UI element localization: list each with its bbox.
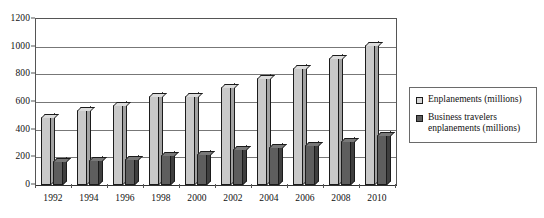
bar-enplanements	[293, 68, 303, 185]
bar-business-travelers	[161, 155, 171, 185]
x-axis-tick-mark	[395, 184, 396, 188]
y-axis-tick-label: 800	[15, 68, 30, 78]
bar-group	[288, 19, 324, 185]
bar-top	[329, 55, 347, 59]
bar-top	[161, 152, 179, 156]
bar-enplanements	[149, 96, 159, 185]
legend-label: Enplanements (millions)	[428, 94, 522, 106]
bar-top	[377, 132, 395, 136]
x-axis-tick-mark	[71, 184, 72, 188]
bar-side	[207, 150, 211, 185]
bar-group	[108, 19, 144, 185]
bar-business-travelers	[53, 161, 63, 185]
bar-enplanements	[329, 58, 339, 185]
bar-business-travelers	[233, 149, 243, 185]
bar-face	[233, 149, 243, 185]
bar-business-travelers	[89, 160, 99, 185]
bar-top	[89, 157, 107, 161]
bar-face	[197, 154, 207, 185]
x-axis-tick-mark	[179, 184, 180, 188]
bar-face	[185, 96, 195, 185]
bar-side	[351, 137, 355, 185]
x-axis-tick-label: 2008	[331, 193, 350, 203]
x-axis-tick-mark	[107, 184, 108, 188]
bar-group	[144, 19, 180, 185]
bar-group	[252, 19, 288, 185]
bar-enplanements	[221, 87, 231, 185]
x-axis-tick-label: 2006	[295, 193, 314, 203]
bar-face	[41, 117, 51, 185]
bar-business-travelers	[305, 145, 315, 185]
legend-item: Enplanements (millions)	[416, 94, 531, 106]
x-axis: 1992199419961998200020022004200620082010	[35, 184, 395, 218]
x-axis-tick-mark	[143, 184, 144, 188]
bar-top	[113, 102, 131, 106]
legend-item: Business travelers enplanements (million…	[416, 112, 531, 135]
bar-face	[149, 96, 159, 185]
bar-face	[125, 159, 135, 185]
bar-face	[341, 141, 351, 185]
bar-enplanements	[77, 110, 87, 185]
bar-face	[89, 160, 99, 185]
bar-group	[180, 19, 216, 185]
bar-face	[305, 145, 315, 185]
x-axis-tick-mark	[251, 184, 252, 188]
bar-business-travelers	[197, 154, 207, 185]
bar-top	[185, 93, 203, 97]
bar-group	[216, 19, 252, 185]
legend-swatch-business-travelers-icon	[416, 115, 423, 122]
x-axis-tick-label: 1996	[115, 193, 134, 203]
bar-face	[365, 45, 375, 185]
bar-top	[41, 114, 59, 118]
plot-inner	[36, 19, 396, 185]
bar-group	[324, 19, 360, 185]
x-axis-tick-mark	[35, 184, 36, 188]
bar-enplanements	[257, 78, 267, 185]
y-axis-tick-label: 200	[15, 151, 30, 161]
x-axis-tick-label: 1998	[151, 193, 170, 203]
bar-face	[257, 78, 267, 185]
bar-side	[243, 145, 247, 185]
bar-enplanements	[113, 105, 123, 185]
y-axis-tick-label: 600	[15, 96, 30, 106]
bar-top	[269, 144, 287, 148]
bar-top	[233, 146, 251, 150]
bar-group	[360, 19, 396, 185]
y-axis: 020040060080010001200	[0, 0, 30, 218]
bar-top	[221, 84, 239, 88]
bar-top	[257, 75, 275, 79]
bar-top	[341, 138, 359, 142]
y-axis-tick-label: 1000	[11, 41, 30, 51]
bar-group	[72, 19, 108, 185]
y-axis-tick-label: 1200	[11, 13, 30, 23]
x-axis-tick-mark	[359, 184, 360, 188]
y-axis-tick-label: 400	[15, 124, 30, 134]
bar-face	[221, 87, 231, 185]
bar-face	[77, 110, 87, 185]
bar-enplanements	[41, 117, 51, 185]
bar-top	[125, 156, 143, 160]
x-axis-tick-label: 2002	[223, 193, 242, 203]
bar-business-travelers	[377, 135, 387, 185]
x-axis-tick-label: 2004	[259, 193, 278, 203]
bar-enplanements	[185, 96, 195, 185]
bar-business-travelers	[269, 147, 279, 185]
x-axis-tick-mark	[323, 184, 324, 188]
bar-top	[305, 142, 323, 146]
legend-label: Business travelers enplanements (million…	[428, 112, 531, 135]
bar-face	[113, 105, 123, 185]
bar-chart: 020040060080010001200 199219941996199820…	[0, 0, 544, 218]
bar-business-travelers	[125, 159, 135, 185]
legend-swatch-enplanements-icon	[416, 97, 423, 104]
bar-top	[365, 42, 383, 46]
bar-top	[293, 65, 311, 69]
x-axis-tick-label: 1992	[43, 193, 62, 203]
x-axis-tick-mark	[215, 184, 216, 188]
bar-face	[329, 58, 339, 185]
plot-area	[35, 18, 397, 185]
bar-top	[77, 107, 95, 111]
bar-face	[269, 147, 279, 185]
bar-face	[161, 155, 171, 185]
bar-face	[377, 135, 387, 185]
bar-enplanements	[365, 45, 375, 185]
